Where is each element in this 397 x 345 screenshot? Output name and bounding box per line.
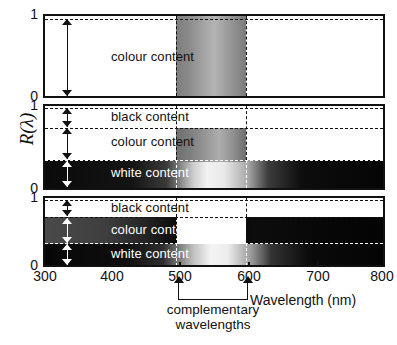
complementary-arrow-500 xyxy=(174,276,184,283)
xtick-label-800: 800 xyxy=(370,268,393,284)
complementary-arrow-600 xyxy=(243,276,253,283)
panel-mid-vline-600 xyxy=(246,106,247,160)
complementary-line-1: complementary xyxy=(140,302,286,317)
panel-top: colour content xyxy=(43,14,385,98)
ytick-mid-1: 1 xyxy=(22,97,38,113)
xtick-label-400: 400 xyxy=(100,268,123,284)
panel-bot-white-arrow xyxy=(61,244,74,265)
complementary-wavelengths-label: complementary wavelengths xyxy=(140,302,286,332)
panel-mid-band-label-black: black content xyxy=(111,109,189,124)
panel-mid-band-label-white: white content xyxy=(111,165,189,180)
xtick-label-700: 700 xyxy=(306,268,329,284)
panel-mid-black-arrow xyxy=(61,108,74,127)
panel-bot-white-content-bar xyxy=(45,244,383,265)
complementary-bracket xyxy=(178,283,248,300)
panel-bot-vline-600-mid xyxy=(246,217,247,243)
panel-bot-black-arrow xyxy=(61,200,74,216)
panel-mid-guide-white xyxy=(45,160,383,161)
panel-mid-white-arrow xyxy=(61,161,74,187)
xtick-600 xyxy=(248,262,250,267)
panel-mid-band-label-colour: colour content xyxy=(111,134,194,149)
xtick-400 xyxy=(111,262,113,267)
xtick-700 xyxy=(317,262,319,267)
panel-top-guide-upper xyxy=(45,19,383,20)
complementary-line-2: wavelengths xyxy=(140,317,286,332)
ytick-bot-1: 1 xyxy=(22,189,38,205)
panel-top-band-label-colour: colour content xyxy=(111,49,194,64)
panel-bot: black content colour content white conte… xyxy=(43,196,385,267)
panel-bot-band-label-colour: colour content xyxy=(111,222,194,237)
xtick-label-300: 300 xyxy=(33,268,56,284)
xtick-500 xyxy=(179,262,181,267)
panel-bot-guide-1 xyxy=(45,200,383,201)
panel-mid-guide-black xyxy=(45,128,383,129)
panel-bot-colour-arrow xyxy=(61,218,74,243)
panel-bot-vline-600-lower xyxy=(246,243,247,266)
panel-bot-guide-white xyxy=(45,243,383,244)
panel-bot-band-label-white: white content xyxy=(111,246,189,261)
panel-mid-vline-600-lower xyxy=(246,160,247,188)
ytick-top-1: 1 xyxy=(22,6,38,22)
panel-mid-white-content-bar xyxy=(45,160,383,188)
panel-mid-colour-arrow xyxy=(61,128,74,159)
panel-top-colour-arrow xyxy=(61,19,74,96)
spectral-reflectance-figure: R(λ) 1 0 1 0 1 0 colour content xyxy=(0,0,397,345)
panel-bot-guide-black xyxy=(45,217,383,218)
panel-mid: black content colour content white conte… xyxy=(43,104,385,190)
panel-mid-guide-1 xyxy=(45,108,383,109)
panel-bot-vline-600-upper xyxy=(246,198,247,217)
panel-top-vline-600 xyxy=(246,16,247,96)
panel-bot-band-label-black: black content xyxy=(111,200,189,215)
